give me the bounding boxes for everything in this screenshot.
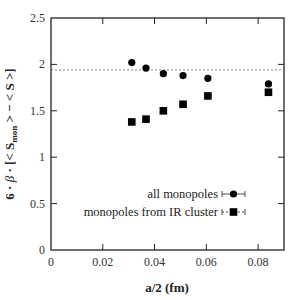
x-axis-label: a/2 (fm): [145, 280, 189, 295]
legend-label: all monopoles: [148, 187, 219, 201]
circle-marker: [179, 72, 186, 79]
svg-text:6 · β · [< Smon > − < S >]: 6 · β · [< Smon > − < S >]: [2, 68, 19, 199]
square-marker: [128, 118, 136, 126]
x-tick-label: 0.04: [144, 255, 165, 269]
x-tick-label: 0.06: [196, 255, 217, 269]
legend-label: monopoles from IR cluster: [84, 205, 219, 219]
y-tick-label: 1: [39, 150, 45, 164]
circle-marker: [160, 70, 167, 77]
x-tick-label: 0.02: [92, 255, 113, 269]
legend: all monopolesmonopoles from IR cluster: [84, 187, 245, 219]
square-marker: [142, 115, 150, 123]
circle-marker: [128, 59, 135, 66]
circle-marker: [204, 75, 211, 82]
y-axis-label: 6 · β · [< Smon > − < S >]: [2, 68, 19, 199]
y-tick-label: 0.5: [30, 197, 45, 211]
data-points: [128, 59, 272, 126]
square-marker: [204, 92, 212, 100]
y-tick-label: 0: [39, 243, 45, 257]
square-marker: [160, 107, 168, 115]
legend-square-marker: [230, 208, 238, 216]
circle-marker: [142, 65, 149, 72]
x-tick-label: 0: [48, 255, 54, 269]
chart: 00.020.040.060.0800.511.522.5 all monopo…: [0, 0, 297, 300]
square-marker: [179, 101, 187, 109]
y-tick-label: 2.5: [30, 11, 45, 25]
x-tick-label: 0.08: [248, 255, 269, 269]
legend-circle-marker: [230, 190, 237, 197]
y-tick-label: 2: [39, 57, 45, 71]
y-tick-label: 1.5: [30, 104, 45, 118]
axis-ticks: 00.020.040.060.0800.511.522.5: [30, 11, 284, 269]
square-marker: [265, 88, 273, 96]
circle-marker: [265, 80, 272, 87]
